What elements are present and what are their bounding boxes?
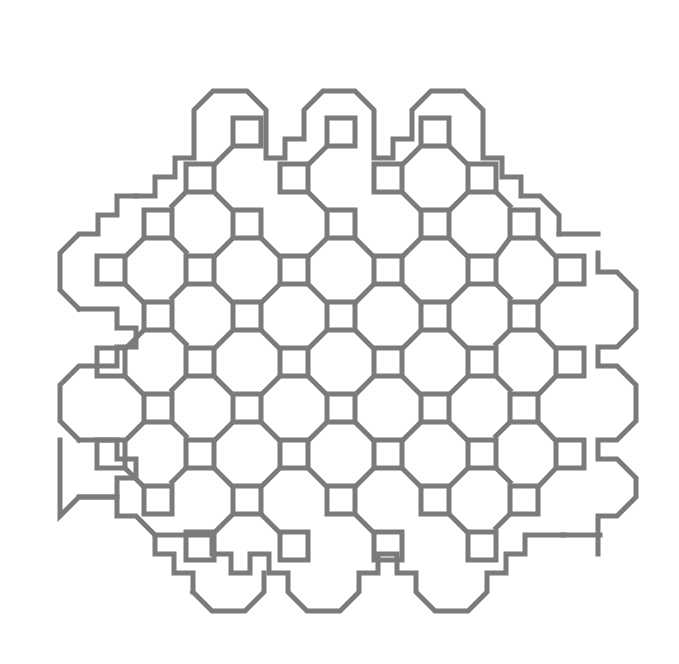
pattern-canvas [0, 0, 679, 664]
figure-root [0, 0, 679, 664]
